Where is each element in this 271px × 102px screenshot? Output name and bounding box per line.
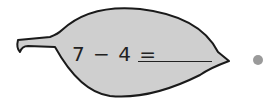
answer-blank[interactable] [138,61,212,62]
bullet-dot-icon [253,55,263,65]
